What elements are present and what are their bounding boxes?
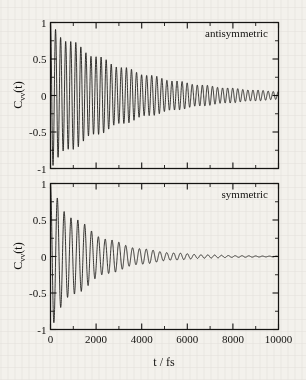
svg-text:1: 1 bbox=[41, 17, 47, 29]
y-tick-labels-bottom: -1-0.500.51 bbox=[29, 178, 47, 336]
y-label-tail-bottom: (t) bbox=[11, 242, 25, 253]
svg-text:0: 0 bbox=[41, 90, 47, 102]
x-axis-title: t / fs bbox=[153, 355, 175, 369]
svg-text:0: 0 bbox=[48, 333, 54, 345]
svg-text:0.5: 0.5 bbox=[33, 214, 47, 226]
svg-text:0: 0 bbox=[41, 251, 47, 263]
panel-antisymmetric: -1-0.500.51 antisymmetric Cvv(t) bbox=[11, 17, 279, 175]
y-axis-label-top: Cvv(t) bbox=[11, 81, 27, 108]
panel-symmetric: -1-0.500.51 0200040006000800010000 symme… bbox=[11, 178, 293, 370]
svg-text:8000: 8000 bbox=[222, 333, 245, 345]
svg-text:1: 1 bbox=[41, 178, 47, 190]
panel-annotation-antisymmetric: antisymmetric bbox=[205, 27, 268, 39]
svg-text:0.5: 0.5 bbox=[33, 53, 47, 65]
panel-annotation-symmetric: symmetric bbox=[222, 188, 269, 200]
figure-canvas: -1-0.500.51 antisymmetric Cvv(t) -1-0.50… bbox=[0, 0, 306, 380]
svg-text:-0.5: -0.5 bbox=[29, 126, 47, 138]
data-curve-antisymmetric bbox=[51, 23, 279, 166]
x-tick-labels-bottom: 0200040006000800010000 bbox=[48, 333, 293, 345]
y-tick-labels-top: -1-0.500.51 bbox=[29, 17, 47, 175]
svg-text:10000: 10000 bbox=[265, 333, 293, 345]
y-label-sub-top: vv bbox=[18, 93, 27, 101]
y-label-main-bottom: C bbox=[11, 262, 25, 270]
data-curve-symmetric bbox=[51, 184, 279, 323]
y-axis-label-top-text: Cvv(t) bbox=[11, 81, 27, 108]
y-axis-label-bottom-text: Cvv(t) bbox=[11, 242, 27, 269]
svg-text:-1: -1 bbox=[37, 324, 46, 336]
svg-text:-1: -1 bbox=[37, 163, 46, 175]
svg-text:6000: 6000 bbox=[176, 333, 199, 345]
y-axis-label-bottom: Cvv(t) bbox=[11, 242, 27, 269]
y-label-sub-bottom: vv bbox=[18, 254, 27, 262]
figure-velocity-autocorrelation: -1-0.500.51 antisymmetric Cvv(t) -1-0.50… bbox=[0, 0, 306, 380]
svg-text:2000: 2000 bbox=[85, 333, 108, 345]
y-label-main-top: C bbox=[11, 101, 25, 109]
y-label-tail-top: (t) bbox=[11, 81, 25, 92]
svg-text:4000: 4000 bbox=[131, 333, 154, 345]
svg-text:-0.5: -0.5 bbox=[29, 287, 47, 299]
